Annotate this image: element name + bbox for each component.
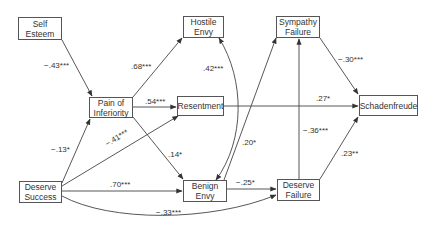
node-resentment: Resentment — [177, 96, 224, 116]
edge-label-deserve-success-pain: −.13* — [51, 145, 70, 154]
node-label: Sympathy — [279, 17, 317, 27]
path-diagram: Self Esteem Pain of Inferiority Hostile … — [0, 0, 435, 227]
edge-label-deserve-failure-sympathy: −.36*** — [303, 126, 328, 135]
edge-pain-to-benign-envy — [133, 117, 183, 179]
edge-label-pain-hostile-envy: .68*** — [131, 62, 151, 71]
edge-label-pain-resentment: .54*** — [145, 97, 165, 106]
edge-label-benign-sympathy: .20* — [242, 138, 256, 147]
edge-label-deserve-success-deserve-failure: −.33*** — [156, 208, 181, 217]
node-label: Failure — [286, 190, 312, 200]
node-label: Deserve — [25, 182, 57, 192]
edge-label-sympathy-schadenfreude: −.30*** — [338, 55, 363, 64]
node-label: Success — [24, 192, 56, 202]
edge-benign-envy-to-sympathy-failure — [224, 38, 276, 180]
node-label: Resentment — [178, 101, 224, 111]
node-label: Failure — [285, 27, 311, 37]
edge-label-deserve-success-benign-envy: .70*** — [110, 180, 130, 189]
node-label: Benign — [192, 181, 218, 191]
edge-label-deserve-failure-schadenfreude: .23** — [341, 149, 358, 158]
node-label: Envy — [196, 191, 215, 201]
node-deserve-failure: Deserve Failure — [277, 179, 320, 201]
node-label: Self — [33, 19, 48, 29]
node-label: Envy — [194, 27, 213, 37]
node-pain-of-inferiority: Pain of Inferiority — [89, 97, 133, 118]
edge-label-benign-deserve-failure: −.25* — [236, 178, 255, 187]
node-hostile-envy: Hostile Envy — [183, 16, 224, 38]
node-label: Schadenfreude — [360, 101, 418, 111]
node-sympathy-failure: Sympathy Failure — [276, 16, 320, 38]
node-label: Deserve — [283, 180, 315, 190]
edge-label-pain-benign-envy: .14* — [168, 150, 182, 159]
node-label: Esteem — [26, 29, 55, 39]
edge-label-resentment-schadenfreude: .27* — [316, 94, 330, 103]
edge-label-hostile-benign: .42*** — [203, 64, 223, 73]
node-label: Hostile — [191, 17, 217, 27]
edge-sympathy-failure-to-schadenfreude — [320, 38, 358, 94]
node-self-esteem: Self Esteem — [18, 17, 62, 40]
node-benign-envy: Benign Envy — [183, 180, 227, 202]
edge-label-self-esteem-pain: −.43*** — [44, 61, 69, 70]
node-deserve-success: Deserve Success — [19, 181, 62, 203]
node-label: Inferiority — [94, 108, 129, 118]
node-label: Pain of — [98, 98, 124, 108]
node-schadenfreude: Schadenfreude — [359, 95, 418, 116]
